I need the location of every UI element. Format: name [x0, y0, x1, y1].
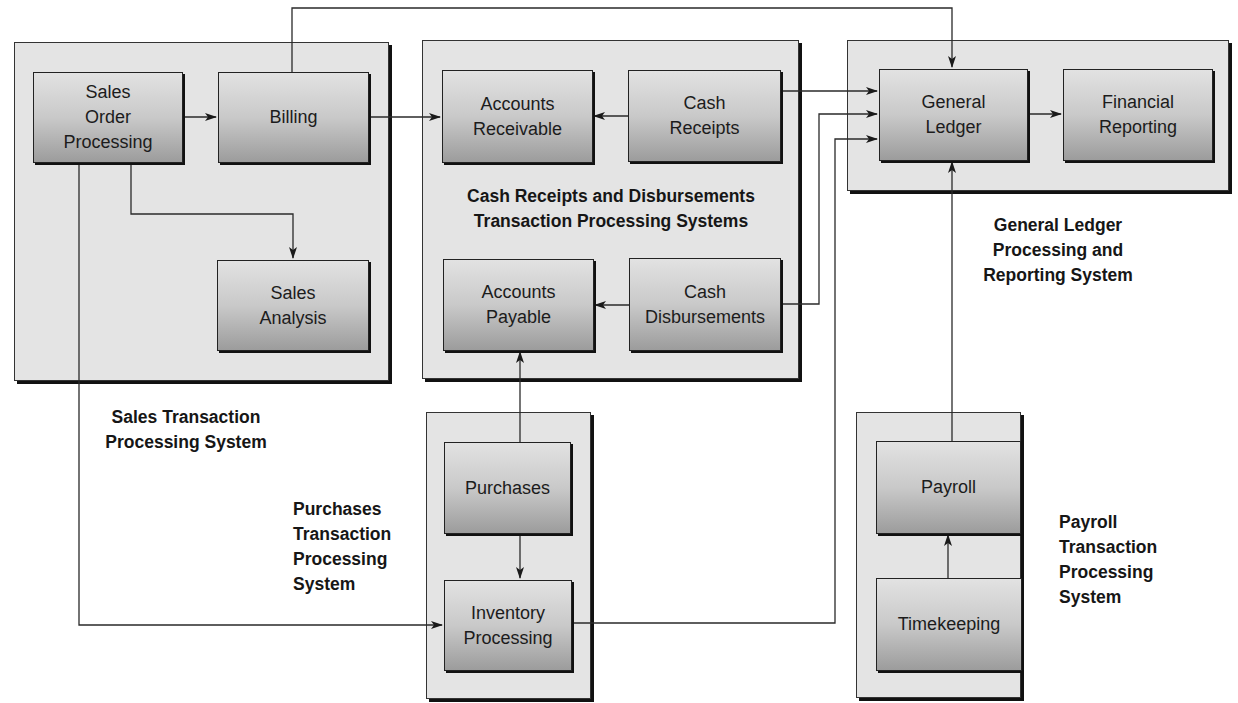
billing-box[interactable]: Billing	[218, 72, 369, 163]
cash-receipts-box[interactable]: Cash Receipts	[628, 70, 781, 162]
general-ledger-box[interactable]: General Ledger	[879, 69, 1028, 161]
payroll-box[interactable]: Payroll	[876, 441, 1021, 534]
sales-analysis-box[interactable]: Sales Analysis	[217, 260, 369, 351]
accounts-receivable-box[interactable]: Accounts Receivable	[442, 70, 593, 163]
purchases-system-label: Purchases Transaction Processing System	[293, 497, 391, 597]
payroll-system-label: Payroll Transaction Processing System	[1059, 510, 1157, 610]
general-ledger-system-label: General Ledger Processing and Reporting …	[958, 213, 1158, 288]
inventory-processing-box[interactable]: Inventory Processing	[444, 580, 572, 671]
sales-system-label: Sales Transaction Processing System	[96, 405, 276, 455]
accounts-payable-box[interactable]: Accounts Payable	[443, 259, 594, 351]
purchases-box[interactable]: Purchases	[444, 442, 571, 534]
sales-order-processing-box[interactable]: Sales Order Processing	[33, 72, 183, 163]
timekeeping-box[interactable]: Timekeeping	[876, 578, 1022, 671]
cash-system-label: Cash Receipts and Disbursements Transact…	[425, 184, 797, 234]
financial-reporting-box[interactable]: Financial Reporting	[1063, 69, 1213, 161]
cash-disbursements-box[interactable]: Cash Disbursements	[629, 258, 781, 351]
